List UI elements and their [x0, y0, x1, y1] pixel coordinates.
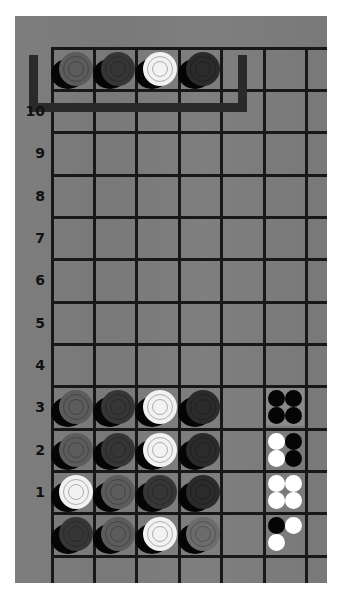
guess-row-3-peg-1[interactable]: [53, 431, 93, 471]
feedback-peg-white-icon: [268, 492, 285, 509]
grid-line-vertical: [220, 47, 223, 583]
grid-line-horizontal: [51, 174, 327, 177]
peg-ring: [195, 526, 211, 542]
peg-gray-icon: [59, 52, 93, 86]
feedback-row-2: [266, 473, 304, 511]
grid-line-horizontal: [51, 555, 327, 558]
feedback-peg-white-icon: [268, 450, 285, 467]
feedback-peg-white-icon: [268, 433, 285, 450]
peg-ring: [195, 442, 211, 458]
guess-row-1-peg-1[interactable]: [53, 515, 93, 555]
peg-dark-icon: [101, 390, 135, 424]
peg-gray-icon: [101, 475, 135, 509]
guess-row-3-peg-4[interactable]: [180, 431, 220, 471]
row-label-6: 6: [15, 272, 45, 288]
row-label-5: 5: [15, 315, 45, 331]
peg-dark-icon: [59, 517, 93, 551]
row-label-3: 3: [15, 399, 45, 415]
peg-dark-icon: [143, 475, 177, 509]
guess-row-3-peg-2[interactable]: [95, 431, 135, 471]
peg-ring: [68, 484, 84, 500]
guess-row-4-peg-3[interactable]: [137, 388, 177, 428]
secret-bracket-right: [238, 55, 247, 112]
row-label-9: 9: [15, 145, 45, 161]
guess-row-2-peg-3[interactable]: [137, 473, 177, 513]
feedback-peg-white-icon: [285, 475, 302, 492]
guess-row-4-peg-4[interactable]: [180, 388, 220, 428]
secret-peg-4[interactable]: [180, 50, 220, 90]
secret-bracket-bottom: [29, 103, 247, 112]
grid-line-horizontal: [51, 216, 327, 219]
guess-row-2-peg-2[interactable]: [95, 473, 135, 513]
peg-dark-icon: [101, 433, 135, 467]
peg-ring: [110, 399, 126, 415]
peg-ring: [152, 399, 168, 415]
feedback-peg-black-icon: [285, 433, 302, 450]
row-label-2: 2: [15, 442, 45, 458]
guess-row-1-peg-3[interactable]: [137, 515, 177, 555]
row-label-10: 10: [15, 103, 45, 119]
peg-white-icon: [143, 390, 177, 424]
peg-white-icon: [143, 517, 177, 551]
row-label-4: 4: [15, 357, 45, 373]
peg-darker-icon: [186, 475, 220, 509]
peg-ring: [195, 484, 211, 500]
guess-row-2-peg-4[interactable]: [180, 473, 220, 513]
peg-ring: [68, 526, 84, 542]
grid-line-horizontal: [51, 301, 327, 304]
feedback-row-1: [266, 515, 304, 553]
feedback-peg-black-icon: [285, 390, 302, 407]
feedback-row-3: [266, 431, 304, 469]
grid-line-horizontal: [51, 131, 327, 134]
feedback-peg-white-icon: [285, 517, 302, 534]
guess-row-4-peg-2[interactable]: [95, 388, 135, 428]
peg-darker-icon: [186, 433, 220, 467]
feedback-peg-black-icon: [268, 407, 285, 424]
guess-row-1-peg-4[interactable]: [180, 515, 220, 555]
guess-row-3-peg-3[interactable]: [137, 431, 177, 471]
peg-ring: [110, 484, 126, 500]
feedback-peg-black-icon: [285, 450, 302, 467]
peg-white-icon: [143, 433, 177, 467]
peg-light-gray-icon: [186, 517, 220, 551]
secret-peg-3[interactable]: [137, 50, 177, 90]
peg-gray-icon: [59, 433, 93, 467]
guess-row-2-peg-1[interactable]: [53, 473, 93, 513]
grid-line-horizontal: [51, 258, 327, 261]
row-label-7: 7: [15, 230, 45, 246]
row-label-1: 1: [15, 484, 45, 500]
peg-ring: [68, 399, 84, 415]
feedback-peg-black-icon: [285, 407, 302, 424]
secret-peg-1[interactable]: [53, 50, 93, 90]
secret-peg-2[interactable]: [95, 50, 135, 90]
peg-gray-icon: [59, 390, 93, 424]
peg-ring: [110, 61, 126, 77]
feedback-peg-black-icon: [268, 390, 285, 407]
peg-ring: [195, 61, 211, 77]
feedback-row-4: [266, 388, 304, 426]
peg-darker-icon: [186, 390, 220, 424]
peg-ring: [110, 442, 126, 458]
peg-ring: [152, 442, 168, 458]
peg-white-icon: [59, 475, 93, 509]
game-board: 10987654321: [15, 16, 327, 583]
feedback-peg-black-icon: [268, 517, 285, 534]
feedback-peg-white-icon: [268, 475, 285, 492]
guess-row-4-peg-1[interactable]: [53, 388, 93, 428]
peg-ring: [110, 526, 126, 542]
peg-ring: [68, 61, 84, 77]
grid-line-vertical: [305, 47, 308, 583]
peg-ring: [68, 442, 84, 458]
peg-darker-icon: [186, 52, 220, 86]
feedback-peg-white-icon: [285, 492, 302, 509]
peg-ring: [152, 484, 168, 500]
grid-line-horizontal: [51, 343, 327, 346]
peg-gray-icon: [101, 517, 135, 551]
guess-row-1-peg-2[interactable]: [95, 515, 135, 555]
peg-ring: [152, 526, 168, 542]
peg-ring: [195, 399, 211, 415]
peg-dark-icon: [101, 52, 135, 86]
feedback-peg-white-icon: [268, 534, 285, 551]
row-label-8: 8: [15, 188, 45, 204]
peg-white-icon: [143, 52, 177, 86]
